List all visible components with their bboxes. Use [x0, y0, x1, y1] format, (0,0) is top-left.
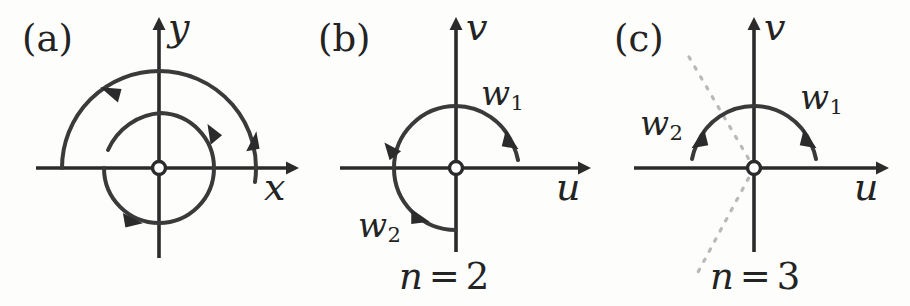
panel-a-y-axis-label: y — [168, 8, 189, 46]
panel-c-dashed-separatrix-top — [689, 57, 754, 168]
panel-c-origin-marker — [748, 162, 761, 175]
panel-b-mode-label: n=2 — [399, 258, 489, 295]
panel-c-mode-equals: = — [740, 255, 771, 298]
panel-c-w2-symbol: w — [640, 103, 669, 143]
panel-b-v-axis-label: v — [466, 8, 487, 46]
panel-c-w2-arc — [692, 106, 754, 159]
panel-c-u-axis-label: u — [854, 168, 878, 206]
panel-c-w2-label: w2 — [640, 106, 683, 143]
panel-a-graphics — [36, 17, 299, 258]
panel-c-w1-subscript: 1 — [830, 94, 843, 119]
panel-b-mode-value: 2 — [466, 255, 490, 298]
phase-portrait-figure: (a) y x (b) v u w1 w2 n=2 (c) v u w1 w2 … — [0, 0, 910, 306]
panel-b-w2-symbol: w — [358, 205, 387, 245]
panel-a-x-axis-label: x — [264, 168, 285, 206]
panel-b-mode-symbol: n — [399, 255, 423, 298]
panel-c-graphics — [634, 17, 889, 274]
panel-a-origin-marker — [153, 162, 166, 175]
panel-b-mode-equals: = — [429, 255, 460, 298]
panel-b-tag: (b) — [318, 20, 371, 57]
panel-c-mode-value: 3 — [777, 255, 801, 298]
panel-b-w1-label: w1 — [481, 76, 524, 113]
panel-c-tag: (c) — [614, 20, 664, 57]
panel-b-w1-arc — [456, 106, 518, 160]
panel-b-u-axis-label: u — [556, 168, 580, 206]
panel-b-w1-subscript: 1 — [511, 90, 524, 115]
panel-c-mode-symbol: n — [710, 255, 734, 298]
panel-a-outer-arc-arrowhead-left — [100, 85, 123, 104]
panel-c-w2-subscript: 2 — [670, 120, 683, 145]
panel-a-tag: (a) — [22, 20, 73, 57]
panel-b-w2-label: w2 — [358, 208, 401, 245]
panel-b-w1-symbol: w — [481, 73, 510, 113]
panel-b-w2-subscript: 2 — [388, 222, 401, 247]
panel-c-v-axis-arrowhead — [748, 17, 761, 30]
panel-c-mode-label: n=3 — [710, 258, 800, 295]
panel-b-origin-marker — [450, 162, 463, 175]
panel-c-v-axis-label: v — [764, 8, 785, 46]
panel-a-y-axis-arrowhead — [153, 17, 166, 30]
panel-b-v-axis-arrowhead — [450, 17, 463, 30]
panel-c-w1-label: w1 — [800, 80, 843, 117]
panel-c-w1-symbol: w — [800, 77, 829, 117]
panel-a-x-axis-arrowhead — [286, 162, 299, 175]
